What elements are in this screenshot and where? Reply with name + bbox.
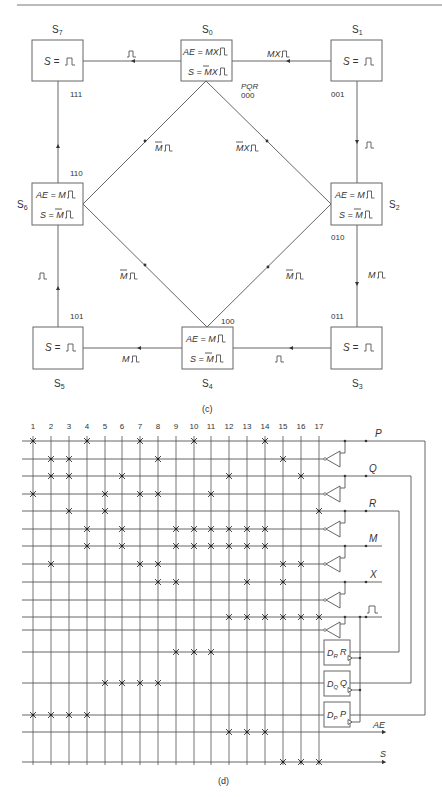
column-lines (33, 436, 319, 765)
state-output-s6-s: S = M (40, 210, 64, 220)
state-code-s4: 100 (221, 317, 235, 326)
column-label: 1 (31, 422, 36, 431)
state-output-s2-s: S = M (339, 210, 363, 220)
input-label-m: M (369, 533, 378, 544)
inverter-icon (326, 556, 340, 572)
column-label: 7 (138, 422, 143, 431)
state-output-s5: S = (45, 342, 60, 353)
output-label-s: S (380, 749, 386, 759)
diagram-canvas: S7 S = 111 S0 AE = MX S = MX PQR 000 S1 … (0, 0, 442, 797)
state-code-s0: 000 (241, 91, 255, 100)
column-label: 6 (120, 422, 125, 431)
svg-text:M: M (286, 271, 294, 281)
state-output-s0-ae: AE = MX (182, 47, 220, 57)
column-label: 12 (225, 422, 234, 431)
state-code-s2: 010 (331, 233, 345, 242)
flip-flop-p: DP P (324, 702, 352, 727)
input-label-x: X (369, 569, 377, 580)
output-label-ae: AE (372, 720, 386, 730)
state-box-s1: S1 S = 001 (331, 24, 382, 99)
state-name-s3: S3 (352, 378, 363, 390)
state-name-s4: S4 (202, 378, 213, 390)
clock-pulse-icon (127, 51, 136, 57)
crossbar-array: 1234567891011121314151617 P Q R (22, 422, 425, 786)
state-code-s5: 101 (70, 312, 84, 321)
svg-text:M: M (120, 271, 128, 281)
svg-text:M: M (155, 143, 163, 153)
state-output-s1: S = (343, 56, 358, 67)
flip-flop-r: DR R (324, 640, 352, 665)
state-name-s0: S0 (202, 24, 213, 36)
svg-text:R: R (340, 647, 347, 657)
state-code-s3: 011 (331, 312, 344, 321)
state-code-s6: 110 (70, 169, 83, 178)
state-box-s4: S4 AE = M S = M 100 (182, 317, 235, 390)
state-box-s0: S0 AE = MX S = MX PQR 000 (181, 24, 259, 100)
svg-text:Q: Q (340, 678, 347, 688)
inverter-icon (326, 592, 340, 608)
svg-text:P: P (340, 709, 346, 719)
state-box-s6: S6 AE = M S = M 110 (17, 169, 83, 225)
column-label: 14 (261, 422, 270, 431)
input-wiring: P Q R M X (345, 428, 425, 722)
column-label: 10 (190, 422, 199, 431)
state-name-s5: S5 (54, 378, 65, 390)
state-output-s6-ae: AE = M (35, 190, 66, 200)
column-label: 11 (207, 422, 216, 431)
state-output-s3: S = (343, 342, 358, 353)
column-label: 2 (49, 422, 54, 431)
state-name-s7: S7 (52, 24, 63, 36)
svg-text:MX: MX (267, 49, 281, 59)
caption-c: (c) (202, 404, 213, 414)
column-label: 9 (174, 422, 179, 431)
caption-d: (d) (218, 776, 229, 786)
inverter-icon (326, 521, 340, 537)
input-label-r: R (369, 498, 376, 509)
column-label: 5 (103, 422, 108, 431)
code-header: PQR (241, 82, 259, 91)
svg-text:MX: MX (236, 143, 250, 153)
state-output-s4-s: S = M (190, 354, 214, 364)
input-label-p: P (375, 428, 382, 439)
state-box-s2: S2 AE = M S = M 010 (331, 183, 400, 242)
state-box-s3: S3 S = 011 (331, 312, 382, 390)
column-label: 8 (156, 422, 161, 431)
inverter-icon (326, 622, 340, 638)
state-code-s7: 111 (70, 90, 83, 99)
column-label: 3 (67, 422, 72, 431)
input-buffers (324, 440, 347, 638)
clock-input-icon (367, 606, 378, 613)
inverter-icon (326, 451, 340, 467)
flip-flop-q: DQ Q (324, 671, 352, 696)
column-label: 4 (85, 422, 90, 431)
input-label-q: Q (369, 463, 377, 474)
svg-text:M: M (368, 270, 376, 280)
state-name-s2: S2 (389, 199, 400, 211)
column-label: 17 (315, 422, 324, 431)
inverter-icon (326, 486, 340, 502)
state-output-s7: S = (44, 56, 59, 67)
transition-edges (56, 59, 359, 350)
column-labels: 1234567891011121314151617 (31, 422, 324, 431)
state-code-s1: 001 (331, 90, 345, 99)
state-output-s2-ae: AE = M (334, 190, 365, 200)
column-label: 16 (297, 422, 306, 431)
column-label: 13 (243, 422, 252, 431)
column-label: 15 (279, 422, 288, 431)
state-output-s4-ae: AE = M (185, 334, 216, 344)
state-name-s6: S6 (17, 199, 28, 211)
state-name-s1: S1 (352, 24, 363, 36)
state-box-s7: S7 S = 111 (32, 24, 83, 99)
state-diagram: S7 S = 111 S0 AE = MX S = MX PQR 000 S1 … (17, 24, 400, 414)
svg-text:M: M (122, 354, 130, 364)
state-output-s0-s: S = MX (188, 67, 219, 77)
